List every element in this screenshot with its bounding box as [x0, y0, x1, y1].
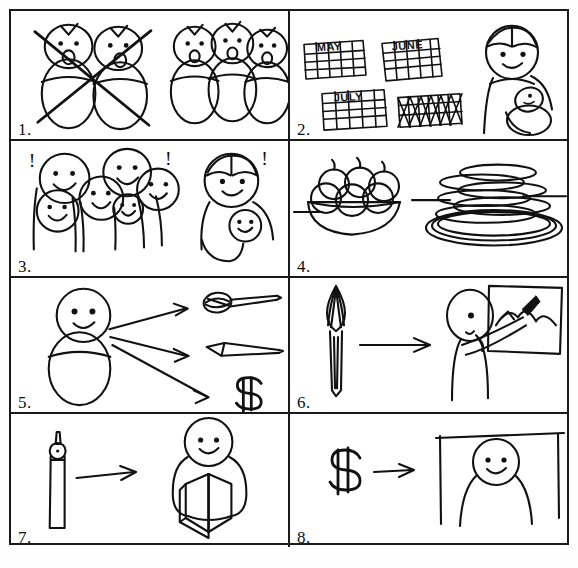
brush-tip — [522, 296, 540, 316]
baby-held — [202, 210, 262, 261]
pen-object — [207, 343, 283, 356]
arrow-to-money — [112, 345, 208, 403]
panel-2-artwork: MAY JUNE — [290, 11, 569, 139]
panel-7[interactable]: 7. — [11, 414, 290, 547]
panel-8[interactable]: 8. — [290, 414, 569, 547]
baby-figure — [49, 289, 111, 405]
panel-7-artwork — [11, 414, 288, 547]
arrow-right — [360, 338, 430, 352]
panel-6-artwork — [290, 278, 569, 412]
paintbrush-object — [327, 286, 345, 396]
svg-text:JUNE: JUNE — [391, 38, 423, 52]
panel-3[interactable]: ! ! ! — [11, 141, 290, 278]
arrow-right — [374, 464, 414, 477]
panel-3-artwork: ! ! ! — [11, 141, 288, 276]
exclamation: ! — [165, 147, 172, 169]
person-figure — [460, 439, 532, 526]
crowd-face — [40, 154, 90, 203]
baby-bundle — [506, 84, 551, 135]
panel-number: 7. — [18, 529, 32, 546]
calendar-may: MAY — [304, 40, 366, 79]
bowl-of-apples — [308, 158, 400, 235]
panel-2[interactable]: MAY JUNE — [290, 11, 569, 141]
panel-4[interactable]: 4. — [290, 141, 569, 278]
exclamation: ! — [261, 147, 268, 169]
panel-1-artwork — [11, 11, 288, 139]
panel-number: 8. — [297, 529, 311, 546]
panel-8-artwork — [290, 414, 569, 547]
paintbrush-object — [203, 291, 281, 313]
panel-6[interactable]: 6. — [290, 278, 569, 414]
painter-figure — [447, 290, 526, 400]
crowd-face — [37, 190, 79, 231]
dollar-sign — [330, 448, 360, 494]
panel-number: 6. — [297, 394, 311, 411]
arrow-right — [77, 466, 137, 480]
calendar-crossed — [398, 94, 462, 127]
panel-number: 4. — [297, 258, 311, 275]
stack-of-plates — [426, 165, 562, 246]
panel-number: 5. — [18, 394, 32, 411]
arrow-to-paintbrush — [109, 304, 187, 330]
svg-text:MAY: MAY — [316, 40, 342, 53]
canvas-painting — [488, 286, 562, 354]
dollar-sign — [236, 378, 261, 412]
calendar-june: JUNE — [382, 38, 442, 81]
open-book — [180, 474, 232, 538]
panel-5[interactable]: 5. — [11, 278, 290, 414]
panel-number: 3. — [18, 258, 32, 275]
exclamation: ! — [29, 149, 36, 171]
calendar-july: JULY — [322, 90, 387, 130]
panel-1[interactable]: 1. — [11, 11, 290, 141]
panel-5-artwork — [11, 278, 288, 412]
crowd-face — [103, 149, 151, 196]
panel-grid: 1. — [9, 9, 569, 545]
pen-object — [50, 432, 66, 528]
svg-text:JULY: JULY — [333, 90, 363, 103]
panel-4-artwork — [290, 141, 569, 276]
worksheet-sheet: 1. — [0, 0, 578, 568]
panel-number: 1. — [18, 121, 32, 138]
woman-with-baby — [484, 26, 552, 133]
building-frame — [436, 433, 564, 524]
panel-number: 2. — [297, 121, 311, 138]
